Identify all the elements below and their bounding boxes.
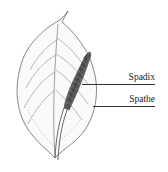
- spadix-leader-line: [82, 84, 155, 85]
- spadix-label: Spadix: [129, 73, 155, 83]
- spathe-label: Spathe: [129, 95, 155, 105]
- spathe-leader-line: [93, 106, 155, 107]
- plant-illustration: [0, 0, 168, 172]
